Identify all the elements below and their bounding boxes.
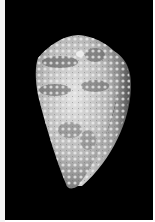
cone-shell-photo xyxy=(0,0,155,222)
